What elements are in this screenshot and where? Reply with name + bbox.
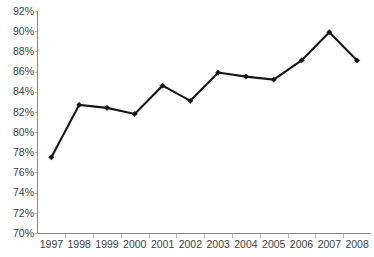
y-axis-tick-label: 70%: [13, 227, 34, 239]
x-axis-tick-label: 2006: [290, 238, 314, 250]
x-axis-tick-label: 2005: [262, 238, 286, 250]
line-chart: 70%72%74%76%78%80%82%84%86%88%90%92% 199…: [0, 0, 374, 257]
x-axis-tick-label: 1998: [68, 238, 92, 250]
x-axis-tick-label: 2000: [123, 238, 147, 250]
y-axis-tick-label: 80%: [13, 126, 34, 138]
data-series-line: [51, 32, 357, 157]
y-axis-tick-label: 76%: [13, 166, 34, 178]
y-axis-tick-label: 74%: [13, 186, 34, 198]
y-axis-tick-label: 88%: [13, 45, 34, 57]
y-axis-tick-label: 92%: [13, 5, 34, 17]
x-axis-tick-label: 2003: [206, 238, 230, 250]
x-axis-tick-label: 2004: [234, 238, 258, 250]
data-point-marker: [243, 74, 248, 79]
x-axis-tick-label: 2001: [151, 238, 175, 250]
chart-canvas: 70%72%74%76%78%80%82%84%86%88%90%92% 199…: [0, 0, 374, 257]
y-axis-tick-label: 84%: [13, 85, 34, 97]
x-axis-tick-label: 2002: [179, 238, 203, 250]
x-axis-tick-label: 1997: [40, 238, 64, 250]
y-axis-tick-label: 86%: [13, 65, 34, 77]
x-axis-tick-marks: [66, 234, 344, 238]
x-axis-tick-label: 2008: [345, 238, 369, 250]
x-axis-tick-label: 1999: [95, 238, 119, 250]
y-axis-tick-labels: 70%72%74%76%78%80%82%84%86%88%90%92%: [13, 5, 34, 239]
y-axis-tick-label: 82%: [13, 106, 34, 118]
y-axis-tick-label: 90%: [13, 25, 34, 37]
x-axis-tick-label: 2007: [318, 238, 342, 250]
data-point-marker: [104, 105, 109, 110]
y-axis-tick-label: 78%: [13, 146, 34, 158]
y-axis-tick-label: 72%: [13, 207, 34, 219]
x-axis-tick-labels: 1997199819992000200120022003200420052006…: [40, 238, 369, 250]
